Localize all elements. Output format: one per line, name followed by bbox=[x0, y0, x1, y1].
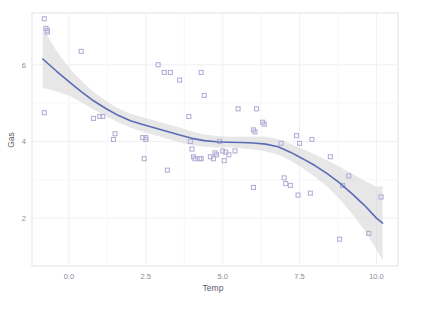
x-tick-label-1: 2.5 bbox=[141, 272, 151, 281]
y-tick-label-1: 4 bbox=[22, 137, 26, 146]
x-axis-title: Temp bbox=[203, 283, 224, 293]
x-tick-label-3: 7.5 bbox=[294, 272, 304, 281]
chart-container: 0.02.55.07.510.0 246 Temp Gas bbox=[0, 0, 425, 309]
y-axis-title: Gas bbox=[6, 132, 16, 148]
y-tick-label-2: 6 bbox=[22, 61, 26, 70]
y-tick-label-0: 2 bbox=[22, 214, 26, 223]
scatter-plot-svg: 0.02.55.07.510.0 246 Temp Gas bbox=[0, 0, 425, 309]
x-tick-label-0: 0.0 bbox=[64, 272, 74, 281]
x-tick-label-4: 10.0 bbox=[369, 272, 384, 281]
x-tick-label-2: 5.0 bbox=[217, 272, 227, 281]
